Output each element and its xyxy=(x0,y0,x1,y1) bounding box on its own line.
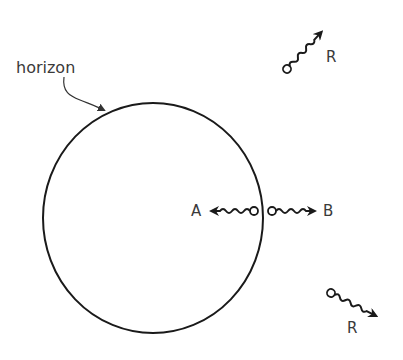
horizon-circle xyxy=(43,103,263,333)
radiation-2-label: R xyxy=(347,321,357,336)
horizon-pointer-arrow xyxy=(64,77,104,110)
particle-b-label: B xyxy=(323,204,333,219)
particle-b-icon xyxy=(268,207,314,215)
radiation-1-icon xyxy=(281,30,324,75)
diagram-svg xyxy=(0,0,403,360)
radiation-2-icon xyxy=(326,288,378,320)
radiation-1-label: R xyxy=(326,50,336,65)
particle-a-icon xyxy=(212,207,258,215)
diagram-canvas: horizon A B R R xyxy=(0,0,403,360)
particle-a-label: A xyxy=(191,204,201,219)
horizon-label: horizon xyxy=(16,60,75,76)
